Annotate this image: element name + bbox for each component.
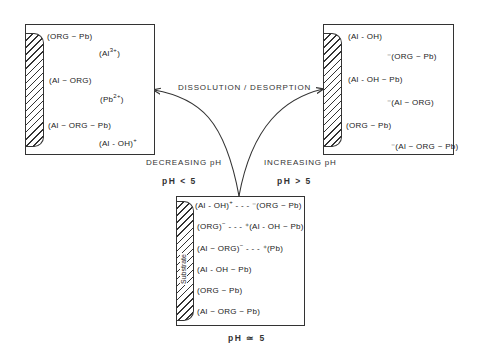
decreasing-ph-label: DECREASING pH — [146, 158, 222, 167]
species-label: (Al - OH)+ — [99, 139, 137, 148]
species-label: (Al ~ ORG ~ Pb) — [197, 307, 260, 316]
species-label: (Al ~ ORG ~ Pb) — [48, 121, 111, 130]
substrate-label: Substrate — [180, 253, 187, 285]
species-label: (Al - OH ~ Pb) — [197, 265, 252, 274]
species-label: (Pb2+) — [100, 95, 124, 104]
species-label: (Al3+) — [99, 49, 120, 58]
species-label: (ORG ~ Pb) — [346, 121, 391, 130]
center-panel: Substrate (Al - OH)+ - - - ⁻(ORG ~ Pb) (… — [176, 196, 305, 326]
right-panel: (Al - OH) ⁻(ORG ~ Pb) (Al - OH ~ Pb) ⁻(A… — [323, 24, 454, 155]
species-label: ⁻(ORG ~ Pb) — [387, 52, 437, 61]
dissolution-caption: DISSOLUTION / DESORPTION — [178, 83, 311, 92]
ph-below-5-label: pH < 5 — [162, 176, 197, 186]
ph-approx-5-label: pH ≃ 5 — [228, 333, 266, 343]
species-label: (Al ~ ORG) — [49, 76, 92, 85]
ph-above-5-label: pH > 5 — [277, 176, 312, 186]
species-label: ⁻(Al ~ ORG) — [387, 98, 434, 107]
species-label: (ORG ~ Pb) — [47, 32, 92, 41]
species-label: ⁻(Al ~ ORG ~ Pb) — [391, 142, 458, 151]
species-label: (Al ~ ORG)− - - - ⁺(Pb) — [197, 244, 283, 253]
increasing-ph-label: INCREASING pH — [264, 158, 337, 167]
left-panel: (ORG ~ Pb) (Al3+) (Al ~ ORG) (Pb2+) (Al … — [25, 24, 155, 155]
species-label: (Al - OH) — [348, 32, 382, 41]
species-label: (ORG)− - - - ⁺(Al - OH ~ Pb) — [197, 222, 304, 231]
species-label: (Al - OH)+ - - - ⁻(ORG ~ Pb) — [195, 201, 302, 210]
substrate-hatch — [324, 33, 342, 147]
substrate-hatch — [26, 33, 44, 147]
species-label: (ORG ~ Pb) — [197, 286, 242, 295]
species-label: (Al - OH ~ Pb) — [348, 75, 403, 84]
